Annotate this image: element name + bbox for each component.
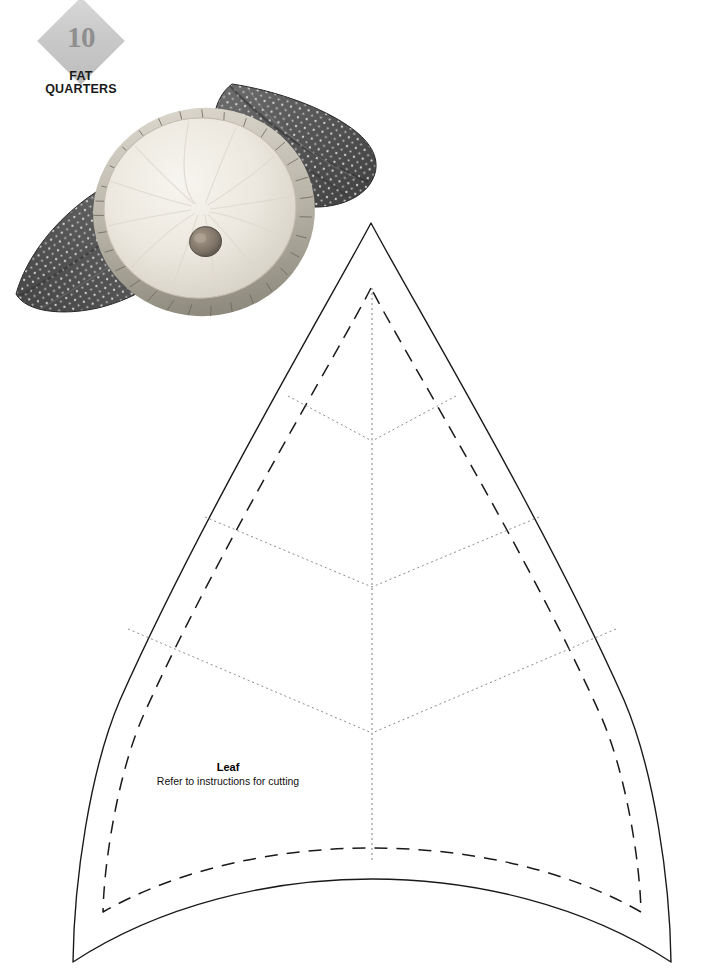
vein-line-3-right bbox=[372, 629, 616, 733]
pattern-label: Leaf Refer to instructions for cutting bbox=[128, 760, 328, 788]
pattern-piece-title: Leaf bbox=[128, 760, 328, 774]
vein-line-2-right bbox=[372, 517, 539, 587]
pattern-page: 10 FAT QUARTERS bbox=[0, 0, 705, 980]
leaf-pattern-template bbox=[0, 0, 705, 980]
vein-line-1-left bbox=[288, 396, 372, 441]
vein-line-2-left bbox=[205, 517, 372, 587]
pattern-piece-instruction: Refer to instructions for cutting bbox=[128, 774, 328, 788]
vein-line-1-right bbox=[372, 396, 456, 441]
vein-line-3-left bbox=[128, 629, 372, 733]
